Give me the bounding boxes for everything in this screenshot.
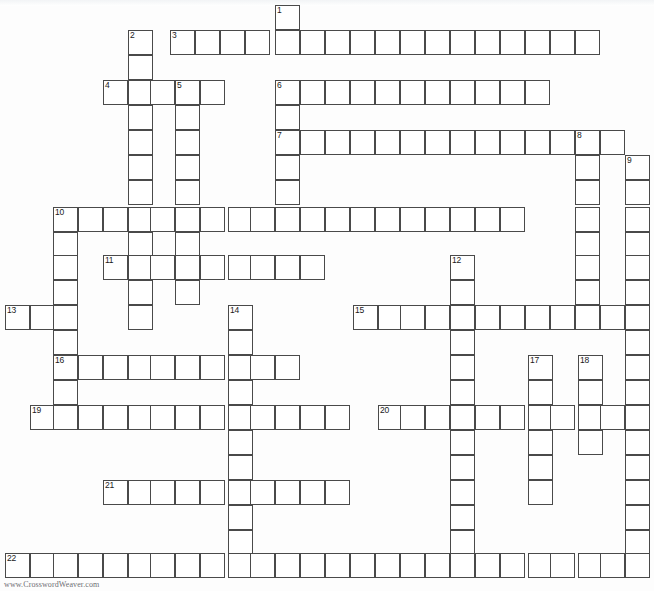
crossword-cell[interactable] <box>228 380 253 405</box>
crossword-cell[interactable] <box>300 255 325 280</box>
crossword-cell-numbered-2[interactable]: 2 <box>128 30 153 55</box>
crossword-cell[interactable] <box>575 255 600 280</box>
crossword-cell[interactable] <box>228 530 253 555</box>
crossword-cell[interactable] <box>245 30 270 55</box>
crossword-cell[interactable] <box>528 380 553 405</box>
crossword-cell[interactable] <box>275 155 300 180</box>
crossword-cell[interactable] <box>375 553 400 578</box>
crossword-cell[interactable] <box>300 480 325 505</box>
crossword-cell[interactable] <box>600 305 625 330</box>
crossword-cell[interactable] <box>275 405 300 430</box>
crossword-cell[interactable] <box>200 553 225 578</box>
crossword-cell[interactable] <box>625 530 650 555</box>
crossword-cell[interactable] <box>250 480 275 505</box>
crossword-cell[interactable] <box>550 405 575 430</box>
crossword-cell[interactable] <box>325 80 350 105</box>
crossword-cell[interactable] <box>150 255 175 280</box>
crossword-cell[interactable] <box>625 505 650 530</box>
crossword-cell[interactable] <box>175 255 200 280</box>
crossword-cell[interactable] <box>575 232 600 257</box>
crossword-cell[interactable] <box>350 130 375 155</box>
crossword-cell[interactable] <box>625 553 650 578</box>
crossword-cell[interactable] <box>103 405 128 430</box>
crossword-cell[interactable] <box>195 30 220 55</box>
crossword-cell[interactable] <box>275 105 300 130</box>
crossword-cell[interactable] <box>500 207 525 232</box>
crossword-cell[interactable] <box>200 480 225 505</box>
crossword-cell[interactable] <box>200 355 225 380</box>
crossword-cell[interactable] <box>250 355 275 380</box>
crossword-cell[interactable] <box>500 553 525 578</box>
crossword-cell[interactable] <box>53 280 78 305</box>
crossword-cell-numbered-18[interactable]: 18 <box>578 355 603 380</box>
crossword-cell[interactable] <box>575 180 600 205</box>
crossword-cell-numbered-8[interactable]: 8 <box>575 130 600 155</box>
crossword-cell[interactable] <box>300 207 325 232</box>
crossword-cell[interactable] <box>475 130 500 155</box>
crossword-cell[interactable] <box>228 455 253 480</box>
crossword-cell-numbered-16[interactable]: 16 <box>53 355 78 380</box>
crossword-cell[interactable] <box>175 155 200 180</box>
crossword-cell-numbered-15[interactable]: 15 <box>353 305 378 330</box>
crossword-cell[interactable] <box>53 405 78 430</box>
crossword-cell[interactable] <box>575 30 600 55</box>
crossword-cell[interactable] <box>53 330 78 355</box>
crossword-cell[interactable] <box>450 305 475 330</box>
crossword-cell[interactable] <box>350 30 375 55</box>
crossword-cell[interactable] <box>525 305 550 330</box>
crossword-cell[interactable] <box>53 305 78 330</box>
crossword-cell[interactable] <box>450 530 475 555</box>
crossword-cell[interactable] <box>375 207 400 232</box>
crossword-cell[interactable] <box>625 180 650 205</box>
crossword-cell-numbered-1[interactable]: 1 <box>275 5 300 30</box>
crossword-cell[interactable] <box>128 55 153 80</box>
crossword-cell[interactable] <box>150 553 175 578</box>
crossword-cell[interactable] <box>475 305 500 330</box>
crossword-cell[interactable] <box>175 480 200 505</box>
crossword-cell[interactable] <box>400 305 425 330</box>
crossword-cell[interactable] <box>228 330 253 355</box>
crossword-cell[interactable] <box>103 207 128 232</box>
crossword-cell[interactable] <box>78 355 103 380</box>
crossword-cell[interactable] <box>128 105 153 130</box>
crossword-cell-numbered-19[interactable]: 19 <box>30 405 55 430</box>
crossword-cell[interactable] <box>200 255 225 280</box>
crossword-cell[interactable] <box>578 380 603 405</box>
crossword-cell[interactable] <box>175 130 200 155</box>
crossword-cell[interactable] <box>528 455 553 480</box>
crossword-cell[interactable] <box>375 30 400 55</box>
crossword-cell[interactable] <box>175 105 200 130</box>
crossword-cell[interactable] <box>250 405 275 430</box>
crossword-cell-numbered-3[interactable]: 3 <box>170 30 195 55</box>
crossword-cell[interactable] <box>575 305 600 330</box>
crossword-cell[interactable] <box>150 80 175 105</box>
crossword-cell[interactable] <box>300 405 325 430</box>
crossword-cell[interactable] <box>128 180 153 205</box>
crossword-cell[interactable] <box>175 180 200 205</box>
crossword-cell-numbered-17[interactable]: 17 <box>528 355 553 380</box>
crossword-cell[interactable] <box>78 553 103 578</box>
crossword-cell[interactable] <box>425 130 450 155</box>
crossword-cell[interactable] <box>450 430 475 455</box>
crossword-cell[interactable] <box>550 130 575 155</box>
crossword-cell[interactable] <box>275 207 300 232</box>
crossword-cell-numbered-22[interactable]: 22 <box>5 553 30 578</box>
crossword-cell-numbered-13[interactable]: 13 <box>5 305 30 330</box>
crossword-cell[interactable] <box>300 30 325 55</box>
crossword-cell[interactable] <box>150 480 175 505</box>
crossword-cell[interactable] <box>53 232 78 257</box>
crossword-grid[interactable]: 12345678910111213141516171819202122 <box>0 0 654 591</box>
crossword-cell[interactable] <box>103 355 128 380</box>
crossword-cell[interactable] <box>375 80 400 105</box>
crossword-cell[interactable] <box>228 430 253 455</box>
crossword-cell[interactable] <box>425 553 450 578</box>
crossword-cell[interactable] <box>625 455 650 480</box>
crossword-cell[interactable] <box>500 405 525 430</box>
crossword-cell[interactable] <box>78 207 103 232</box>
crossword-cell[interactable] <box>625 430 650 455</box>
crossword-cell[interactable] <box>575 280 600 305</box>
crossword-cell[interactable] <box>128 280 153 305</box>
crossword-cell[interactable] <box>275 255 300 280</box>
crossword-cell[interactable] <box>475 405 500 430</box>
crossword-cell[interactable] <box>325 30 350 55</box>
